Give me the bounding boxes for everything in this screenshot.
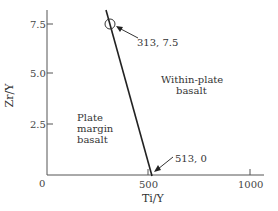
x-tick-500: 500: [139, 179, 158, 190]
x-tick-1000: 1000: [238, 179, 263, 190]
region-plate-margin-3: basalt: [77, 134, 108, 145]
region-within-plate-1: Within-plate: [161, 74, 223, 85]
x-axis-label: Ti/Y: [142, 193, 164, 204]
y-tick-50: 5.0: [30, 68, 46, 79]
region-plate-margin-1: Plate: [77, 112, 103, 123]
x-tick-0: 0: [39, 178, 45, 189]
region-plate-margin-2: margin: [77, 123, 113, 134]
region-within-plate-2: basalt: [176, 85, 207, 96]
annotation-513-0: 513, 0: [175, 153, 207, 164]
y-tick-75: 7.5: [30, 19, 46, 30]
y-tick-25: 2.5: [30, 119, 46, 130]
y-axis-label: Zr/Y: [4, 84, 15, 108]
discriminant-line: [106, 10, 152, 176]
annotation-313-75: 313, 7.5: [137, 37, 178, 48]
